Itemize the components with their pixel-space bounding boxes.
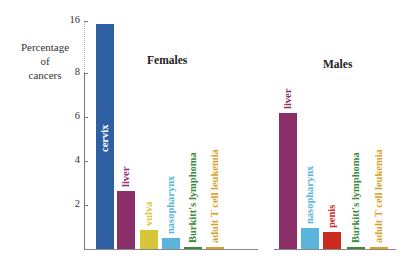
- bar-label: vulva: [143, 201, 155, 226]
- bar-female-liver: [117, 191, 135, 249]
- bar-female-adult-t-cell-leukemia: [206, 247, 224, 249]
- bar-female-nasopharynx: [162, 238, 180, 249]
- group-title-males: Males: [323, 58, 352, 70]
- y-tick-label: 4: [60, 154, 80, 165]
- bar-male-penis: [323, 232, 341, 249]
- bar-label: nasopharynx: [304, 166, 316, 224]
- bar-label: penis: [326, 205, 338, 228]
- y-tick: [84, 21, 88, 22]
- y-axis-label-line: Percentage: [14, 40, 76, 54]
- y-tick-label: 2: [60, 198, 80, 209]
- x-axis-females: [84, 249, 258, 250]
- x-axis-males: [274, 249, 396, 250]
- bar-label: Burkitt's lymphoma: [350, 152, 362, 243]
- bar-label: adult T cell leukemia: [209, 149, 221, 243]
- bar-label: cervix: [99, 125, 111, 152]
- group-title-females: Females: [147, 54, 187, 66]
- y-tick-label: 16: [60, 14, 80, 25]
- y-axis-break: [84, 21, 85, 73]
- bar-label: liver: [282, 89, 294, 109]
- bar-label: nasopharynx: [165, 176, 177, 234]
- y-tick-label: 8: [60, 66, 80, 77]
- bar-label: liver: [120, 167, 132, 187]
- bar-label: Burkitt's lymphoma: [187, 152, 199, 243]
- y-tick: [84, 73, 88, 74]
- bar-male-nasopharynx: [301, 228, 319, 249]
- bar-male-burkitts-lymphoma: [347, 247, 365, 249]
- bar-label: adult T cell leukemia: [373, 149, 385, 243]
- y-tick: [84, 161, 88, 162]
- bar-female-vulva: [140, 230, 158, 249]
- bar-male-liver: [279, 113, 297, 249]
- y-tick: [84, 205, 88, 206]
- y-tick: [84, 117, 88, 118]
- y-tick-label: 6: [60, 110, 80, 121]
- bar-male-adult-t-cell-leukemia: [370, 247, 388, 249]
- bar-female-burkitts-lymphoma: [184, 247, 202, 249]
